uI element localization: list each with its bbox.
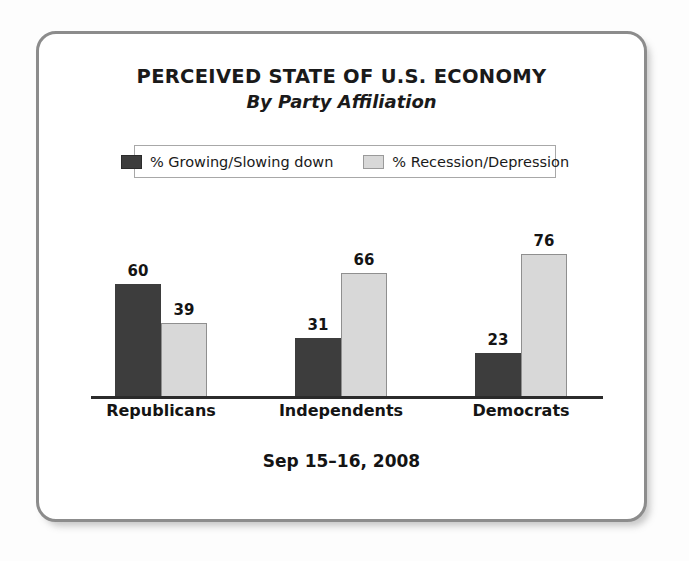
page-title: PERCEIVED STATE OF U.S. ECONOMY (39, 65, 644, 89)
bar-value-label: 39 (174, 303, 195, 318)
bar-wrap-recession[interactable]: 66 (341, 253, 387, 396)
plot-area: 60 39 Republicans 31 66 (91, 209, 603, 399)
bar-wrap-growing[interactable]: 60 (115, 264, 161, 396)
bar-group-republicans: 60 39 Republicans (91, 209, 231, 396)
bar-growing[interactable] (115, 284, 161, 396)
bar-value-label: 60 (128, 264, 149, 279)
bar-group-democrats: 23 76 Democrats (451, 209, 591, 396)
chart-legend: % Growing/Slowing down % Recession/Depre… (134, 145, 556, 178)
legend-item-recession[interactable]: % Recession/Depression (363, 154, 569, 170)
bar-group-bars: 31 66 (271, 209, 411, 396)
bar-recession[interactable] (521, 254, 567, 396)
x-axis-line (91, 396, 603, 399)
bar-value-label: 76 (534, 234, 555, 249)
bar-value-label: 66 (354, 253, 375, 268)
bar-growing[interactable] (295, 338, 341, 396)
legend-item-label: % Recession/Depression (392, 154, 569, 170)
bar-wrap-recession[interactable]: 39 (161, 303, 207, 396)
bar-value-label: 31 (308, 318, 329, 333)
title-block: PERCEIVED STATE OF U.S. ECONOMY By Party… (39, 65, 644, 114)
bar-group-bars: 23 76 (451, 209, 591, 396)
bar-recession[interactable] (161, 323, 207, 396)
bar-recession[interactable] (341, 273, 387, 396)
category-label-democrats: Democrats (451, 401, 591, 420)
chart-card: PERCEIVED STATE OF U.S. ECONOMY By Party… (36, 31, 647, 522)
bar-wrap-recession[interactable]: 76 (521, 234, 567, 396)
bar-value-label: 23 (488, 333, 509, 348)
light-swatch-icon (363, 155, 384, 169)
chart-subtitle: By Party Affiliation (39, 90, 644, 113)
category-label-independents: Independents (271, 401, 411, 420)
bar-growing[interactable] (475, 353, 521, 396)
bar-wrap-growing[interactable]: 31 (295, 318, 341, 396)
survey-date: Sep 15–16, 2008 (39, 451, 644, 471)
bar-group-independents: 31 66 Independents (271, 209, 411, 396)
dark-swatch-icon (121, 155, 142, 169)
bar-wrap-growing[interactable]: 23 (475, 333, 521, 396)
legend-item-label: % Growing/Slowing down (150, 154, 333, 170)
category-label-republicans: Republicans (91, 401, 231, 420)
bar-group-bars: 60 39 (91, 209, 231, 396)
legend-item-growing[interactable]: % Growing/Slowing down (121, 154, 333, 170)
